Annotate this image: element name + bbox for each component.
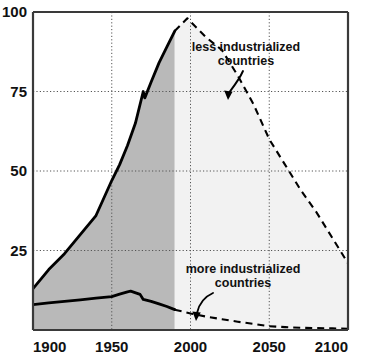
y-tick-75: 75 bbox=[10, 83, 27, 100]
x-tick-1900: 1900 bbox=[33, 338, 66, 355]
more-industrialized-label-line1: more industrialized bbox=[186, 262, 301, 276]
x-tick-2000: 2000 bbox=[174, 338, 207, 355]
x-tick-2050: 2050 bbox=[253, 338, 286, 355]
x-axis-tick-labels: 19001950200020502100 bbox=[33, 338, 348, 355]
population-projection-chart: 255075100 19001950200020502100 less indu… bbox=[0, 0, 366, 364]
chart-canvas: 255075100 19001950200020502100 less indu… bbox=[0, 0, 366, 364]
y-tick-50: 50 bbox=[10, 162, 27, 179]
y-tick-25: 25 bbox=[10, 242, 27, 259]
less-industrialized-label-line1: less industrialized bbox=[192, 40, 300, 54]
more-industrialized-label-line2: countries bbox=[215, 276, 271, 290]
x-tick-2100: 2100 bbox=[315, 338, 348, 355]
y-tick-100: 100 bbox=[2, 3, 27, 20]
less-industrialized-label-line2: countries bbox=[218, 54, 274, 68]
y-axis-tick-labels: 255075100 bbox=[2, 3, 27, 259]
x-tick-1950: 1950 bbox=[95, 338, 128, 355]
